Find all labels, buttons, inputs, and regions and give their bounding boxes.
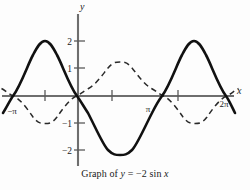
caption-prefix: Graph of (81, 168, 118, 179)
axis-label-y: y (79, 1, 85, 12)
figure-caption: Graph of y = −2 sin x (0, 168, 250, 179)
x-tick-label-pi: π (146, 104, 151, 114)
caption-variable-y: y (121, 168, 126, 179)
x-tick-label-neg-pi: −π (7, 106, 17, 116)
plot-area: y x 2 1 −1 −2 −π π 2π (0, 0, 250, 190)
y-tick-label-neg1: −1 (62, 119, 72, 129)
curve-neg2sin-solid (3, 41, 235, 155)
y-tick-label-1: 1 (67, 64, 72, 74)
figure-trig-graph: y x 2 1 −1 −2 −π π 2π Graph of y = −2 si… (0, 0, 250, 190)
x-tick-label-2pi: 2π (219, 99, 229, 109)
curve-sin-dashed (2, 62, 239, 124)
caption-expression: −2 sin (136, 168, 161, 179)
axis-label-x: x (236, 85, 242, 96)
y-tick-label-neg2: −2 (62, 146, 72, 156)
caption-equals: = (128, 168, 134, 179)
y-tick-label-2: 2 (67, 37, 72, 47)
caption-variable-x: x (164, 168, 169, 179)
